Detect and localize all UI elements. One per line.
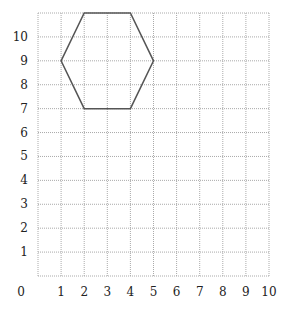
y-tick-label: 3	[20, 197, 28, 211]
x-tick-label: 6	[173, 285, 181, 299]
y-tick-label: 10	[13, 30, 28, 44]
x-tick-label: 1	[57, 285, 65, 299]
y-tick-label: 1	[20, 245, 28, 259]
x-tick-label: 9	[242, 285, 250, 299]
y-tick-label: 7	[20, 102, 28, 116]
y-tick-label: 5	[20, 149, 28, 163]
y-tick-label: 9	[20, 54, 28, 68]
x-tick-label: 2	[80, 285, 88, 299]
x-tick-label: 8	[219, 285, 227, 299]
x-tick-label: 5	[150, 285, 158, 299]
y-tick-label: 6	[20, 126, 28, 140]
x-tick-label: 0	[17, 285, 25, 299]
x-tick-label: 7	[196, 285, 204, 299]
coordinate-grid: 01234567891012345678910	[0, 0, 284, 309]
y-tick-label: 4	[20, 173, 28, 187]
y-tick-label: 2	[20, 221, 28, 235]
x-tick-label: 3	[103, 285, 111, 299]
x-tick-label: 10	[261, 285, 276, 299]
y-tick-label: 8	[20, 78, 28, 92]
x-tick-label: 4	[127, 285, 135, 299]
